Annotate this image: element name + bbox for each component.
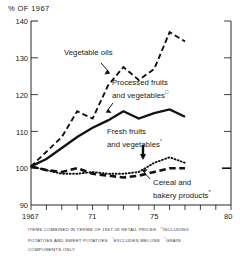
footnote-line-3: components only <box>28 246 234 255</box>
annotation-fresh-fruits-marker: ° <box>160 138 162 144</box>
y-tick-label-130: 130 <box>4 54 28 63</box>
annotation-cereal-bakery-marker: * <box>208 189 210 195</box>
annotation-vegetable-oils: Vegetable oils <box>64 48 113 58</box>
series-cereal-bakery-products <box>31 166 185 177</box>
x-tick-label-71: 71 <box>88 212 96 221</box>
annotation-processed-fruits: Processed fruits and vegetables□ <box>112 78 168 100</box>
footnote-2b: Excludes melons <box>114 239 160 244</box>
footnote-1a: Items combined in terms of 1967-59 retai… <box>28 227 156 232</box>
annotation-cereal-bakery-line2: bakery products <box>153 190 208 199</box>
footnote-line-2: potatoes and sweet potatoes °Excludes me… <box>28 235 234 246</box>
x-tick-label-1967: 1967 <box>22 212 39 221</box>
y-tick-label-140: 140 <box>4 17 28 26</box>
y-tick-label-100: 100 <box>4 164 28 173</box>
annotation-fresh-fruits-line2: and vegetables <box>107 139 160 148</box>
annotation-vegetable-oils-text: Vegetable oils <box>64 48 113 57</box>
footnote-3: components only <box>28 247 75 252</box>
annotation-fresh-fruits-line1: Fresh fruits <box>107 127 146 136</box>
x-tick-label-75: 75 <box>150 212 158 221</box>
footnote-line-1: Items combined in terms of 1967-59 retai… <box>28 224 234 235</box>
annotation-cereal-bakery: Cereal and bakery products* <box>153 178 211 200</box>
chart-footnotes: Items combined in terms of 1967-59 retai… <box>28 224 234 255</box>
y-tick-label-90: 90 <box>4 201 28 210</box>
footnote-2a: potatoes and sweet potatoes <box>28 239 108 244</box>
y-tick-label-120: 120 <box>4 91 28 100</box>
footnote-2c: Grain <box>166 239 181 244</box>
x-axis-ticks <box>31 205 231 210</box>
annotation-cereal-bakery-line1: Cereal and <box>153 178 191 187</box>
annotation-fresh-fruits: Fresh fruits and vegetables° <box>107 127 162 149</box>
annotation-processed-fruits-line1: Processed fruits <box>112 78 168 87</box>
annotation-processed-fruits-line2: and vegetables <box>112 90 165 99</box>
y-tick-label-110: 110 <box>4 128 28 137</box>
chart-axis-title: % OF 1967 <box>8 4 50 13</box>
footnote-1b: Including <box>163 227 189 232</box>
x-tick-label-80: 80 <box>224 212 232 221</box>
annotation-processed-fruits-marker: □ <box>165 89 168 95</box>
